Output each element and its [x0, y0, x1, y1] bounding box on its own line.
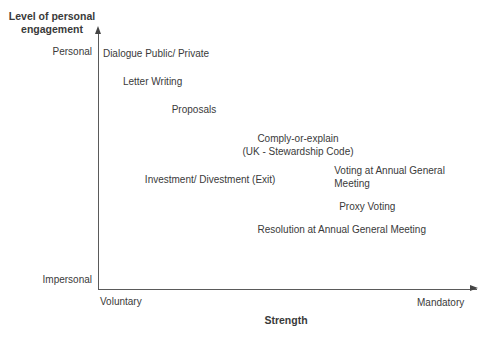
point-label: Proposals [172, 103, 216, 116]
y-axis-min-label: Impersonal [0, 274, 92, 286]
x-axis-min-label: Voluntary [100, 296, 142, 308]
y-axis-max-label: Personal [0, 46, 92, 58]
point-label: Dialogue Public/ Private [103, 46, 209, 59]
plot-area: Dialogue Public/ PrivateLetter WritingPr… [98, 33, 476, 289]
y-axis-title: Level of personal engagement [6, 10, 98, 36]
point-label: Proxy Voting [339, 199, 395, 212]
x-axis-title: Strength [236, 314, 336, 326]
point-label: Letter Writing [123, 75, 182, 88]
engagement-strength-chart: Level of personal engagement Personal Im… [0, 0, 499, 340]
point-label: Investment/ Divestment (Exit) [145, 172, 276, 185]
point-label: Comply-or-explain (UK - Stewardship Code… [242, 132, 353, 158]
point-label: Voting at Annual General Meeting [334, 164, 476, 190]
x-axis-max-label: Mandatory [417, 297, 464, 309]
point-label: Resolution at Annual General Meeting [258, 223, 426, 236]
